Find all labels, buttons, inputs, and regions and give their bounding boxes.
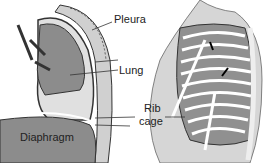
anatomy-diagram: Pleura Lung Rib cage Diaphragm	[0, 0, 269, 163]
label-pleura: Pleura	[114, 14, 146, 25]
label-lung: Lung	[119, 65, 143, 76]
label-cage: cage	[139, 116, 163, 127]
rib-cage-illustration	[150, 0, 262, 163]
label-diaphragm: Diaphragm	[20, 132, 74, 143]
label-rib: Rib	[144, 103, 161, 114]
